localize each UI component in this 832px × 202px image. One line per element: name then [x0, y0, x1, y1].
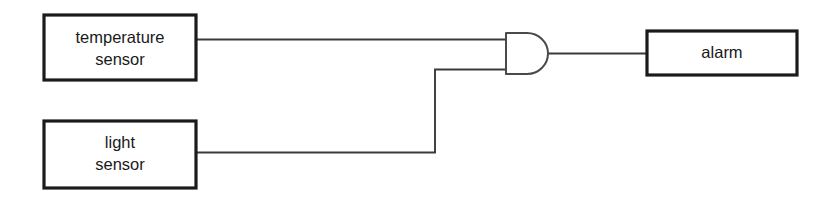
- alarm-label: alarm: [701, 43, 742, 61]
- temperature-sensor-label-line1: temperature: [76, 28, 165, 46]
- temperature-sensor-box: [44, 15, 196, 80]
- diagram-canvas: temperature sensor light sensor alarm: [0, 0, 832, 202]
- temperature-sensor-label-line2: sensor: [95, 50, 145, 68]
- block-alarm[interactable]: alarm: [647, 31, 797, 75]
- and-gate-shape[interactable]: [506, 33, 548, 74]
- light-sensor-label-line1: light: [105, 133, 136, 151]
- block-light-sensor[interactable]: light sensor: [44, 121, 196, 188]
- light-sensor-label-line2: sensor: [95, 155, 145, 173]
- logic-diagram: temperature sensor light sensor alarm: [0, 0, 832, 202]
- wire-light-to-gate: [196, 70, 506, 153]
- block-temperature-sensor[interactable]: temperature sensor: [44, 15, 196, 80]
